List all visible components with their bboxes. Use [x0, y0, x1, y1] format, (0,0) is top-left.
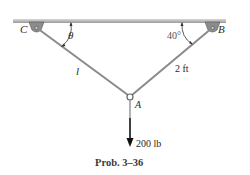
ring-a [127, 94, 133, 100]
label-b: B [218, 24, 225, 35]
label-length-l: l [76, 66, 79, 77]
load-arrow-icon [127, 118, 134, 147]
label-length-2ft: 2 ft [175, 64, 189, 74]
diagram-canvas: C B A θ 40° l 2 ft 200 lb Prob. 3–36 [0, 0, 250, 175]
diagram-graphics [0, 0, 250, 175]
cable-ca [37, 28, 128, 95]
angle-40-arc [182, 23, 192, 44]
ceiling [13, 19, 226, 23]
label-load: 200 lb [136, 139, 161, 149]
label-angle-40: 40° [167, 31, 181, 41]
label-theta: θ [68, 30, 73, 41]
label-a: A [135, 100, 141, 110]
figure-caption: Prob. 3–36 [95, 158, 143, 169]
label-c: C [20, 24, 27, 35]
